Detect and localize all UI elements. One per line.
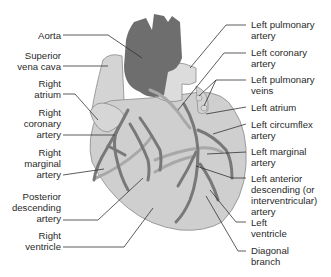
label-left-circumflex-artery: Left circumflexartery <box>251 119 313 141</box>
label-superior-vena-cava: Superiorvena cava <box>0 50 61 72</box>
label-right-ventricle: Rightventricle <box>0 230 61 252</box>
label-left-pulmonary-artery: Left pulmonaryartery <box>251 19 314 41</box>
label-left-anterior-descending-artery: Left anteriordescending (orinterventricu… <box>251 173 317 217</box>
label-left-coronary-artery: Left coronaryartery <box>251 47 307 69</box>
label-right-marginal-artery: Rightmarginalartery <box>0 147 61 180</box>
label-left-marginal-artery: Left marginalartery <box>251 146 306 168</box>
label-diagonal-branch: Diagonalbranch <box>251 245 289 267</box>
label-left-ventricle: Leftventricle <box>251 217 287 239</box>
label-posterior-descending-artery: Posteriordescendingartery <box>0 191 61 224</box>
label-right-coronary-artery: Rightcoronaryartery <box>0 107 61 140</box>
label-right-atrium: Rightatrium <box>0 78 61 100</box>
label-aorta: Aorta <box>0 30 61 41</box>
label-left-pulmonary-veins: Left pulmonaryveins <box>251 74 314 96</box>
label-left-atrium: Left atrium <box>251 102 296 113</box>
